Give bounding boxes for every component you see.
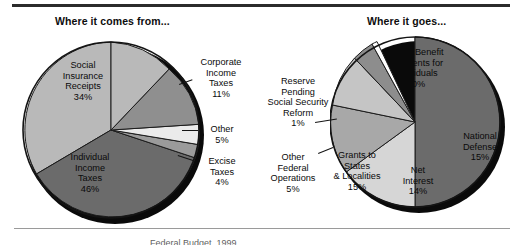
bottom-divider-rule [14,228,510,229]
left-label-excise-taxes: Excise Taxes 4% [196,156,248,188]
left-label-other: Other 5% [200,124,244,145]
right-label-direct-benefit-payments: Direct Benefit Payments for Individuals … [374,47,458,89]
figure-canvas: Where it comes from... [0,0,522,245]
left-leader-other [182,130,198,131]
right-label-other-federal-operations: Other Federal Operations 5% [265,152,321,194]
right-label-grants-to-states-localities: Grants to States & Localities 15% [326,150,388,192]
top-divider-rule [12,4,510,7]
right-label-reserve-pending-social-security-reform: Reserve Pending Social Security Reform 1… [253,76,343,129]
left-chart-title: Where it comes from... [55,15,170,27]
left-label-social-insurance-receipts: Social Insurance Receipts 34% [42,60,124,102]
right-label-national-defense: National Defense 15% [451,131,509,163]
figure-caption: Federal Budget, 1999 [150,238,390,245]
right-chart-title: Where it goes... [367,15,446,27]
right-label-net-interest: Net Interest 14% [394,165,442,197]
left-label-corporate-income-taxes: Corporate Income Taxes 11% [190,57,252,99]
left-label-individual-income-taxes: Individual Income Taxes 46% [50,152,130,194]
